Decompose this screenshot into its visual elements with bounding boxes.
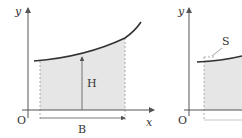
y-axis-label: y	[15, 6, 21, 17]
origin-label: O	[17, 115, 26, 126]
slice-leader	[212, 48, 222, 56]
left-diagram	[22, 8, 154, 120]
height-label: H	[87, 78, 97, 89]
origin-label-right: O	[178, 115, 187, 126]
y-axis-label-right: y	[178, 6, 184, 17]
shaded-area-right	[204, 56, 242, 110]
diagram-canvas	[0, 0, 242, 138]
slice-label: S	[222, 36, 230, 47]
right-diagram	[184, 8, 242, 120]
shaded-area	[40, 38, 125, 110]
base-label: B	[78, 124, 86, 135]
x-axis-label: x	[146, 117, 152, 128]
